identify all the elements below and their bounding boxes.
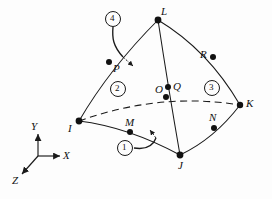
- vertex-label-K: K: [246, 98, 253, 109]
- face-number-3: 3: [209, 83, 214, 92]
- face-number-1: 1: [122, 143, 127, 152]
- node-dot-K: [237, 102, 243, 108]
- axis-label-y: Y: [31, 121, 37, 132]
- face-number-2: 2: [115, 84, 120, 93]
- vertex-label-J: J: [178, 160, 183, 171]
- node-label-R: R: [200, 49, 207, 60]
- node-label-Q: Q: [173, 81, 181, 92]
- node-dot-Q: [165, 84, 171, 90]
- coordinate-axes: [22, 134, 60, 174]
- axis-z-line: [22, 156, 38, 174]
- face-number-4: 4: [110, 14, 115, 23]
- vertex-label-L: L: [161, 6, 167, 17]
- figure-canvas: X Y Z I J K L M N O P Q R 1 2 3 4: [0, 0, 272, 199]
- tetrahedron-drawing: [0, 0, 272, 199]
- node-dot-O: [163, 94, 169, 100]
- normal-arrow-face-4: [123, 57, 133, 66]
- leader-face-4: [113, 27, 123, 57]
- node-dot-L: [155, 17, 162, 24]
- node-dot-R: [210, 54, 216, 60]
- node-dot-P: [106, 59, 112, 65]
- vertex-label-I: I: [68, 123, 72, 134]
- axis-label-z: Z: [12, 175, 18, 186]
- node-dot-I: [76, 118, 83, 125]
- edge-L-K: [158, 20, 240, 105]
- node-label-M: M: [125, 117, 134, 128]
- leader-face-1: [134, 138, 156, 149]
- node-label-O: O: [155, 84, 163, 95]
- node-label-N: N: [209, 112, 216, 123]
- normal-arrow-face-1: [150, 130, 156, 138]
- node-dot-N: [211, 125, 217, 131]
- axis-label-x: X: [63, 150, 70, 161]
- node-dot-J: [177, 152, 184, 159]
- node-dot-M: [127, 129, 133, 135]
- node-label-P: P: [113, 63, 120, 74]
